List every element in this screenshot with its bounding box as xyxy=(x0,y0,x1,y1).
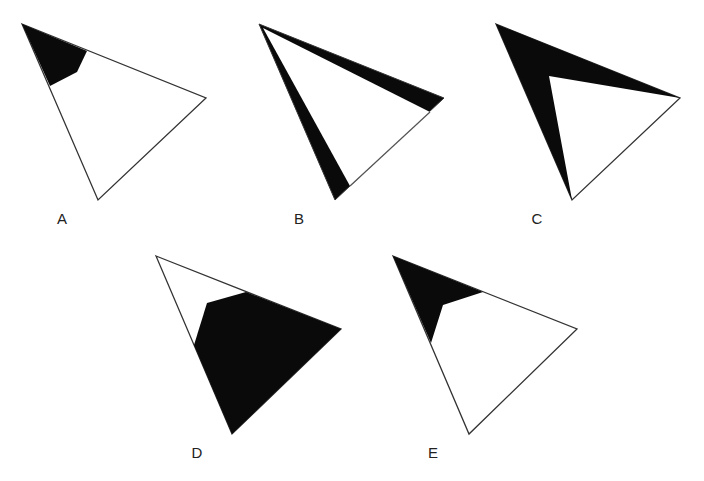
figure-a-label: A xyxy=(52,210,72,227)
figure-a xyxy=(22,24,206,200)
figure-c xyxy=(496,24,680,200)
figure-d xyxy=(156,256,341,434)
figure-e-label: E xyxy=(423,444,443,461)
figure-b-inner-white-region xyxy=(263,28,430,186)
figure-e xyxy=(393,256,577,434)
triangle-figures xyxy=(0,0,704,481)
figure-b-label: B xyxy=(289,210,309,227)
figure-d-label: D xyxy=(187,444,207,461)
figure-c-label: C xyxy=(527,210,547,227)
figure-d-shaded-region xyxy=(194,292,341,434)
figure-b xyxy=(259,24,444,200)
